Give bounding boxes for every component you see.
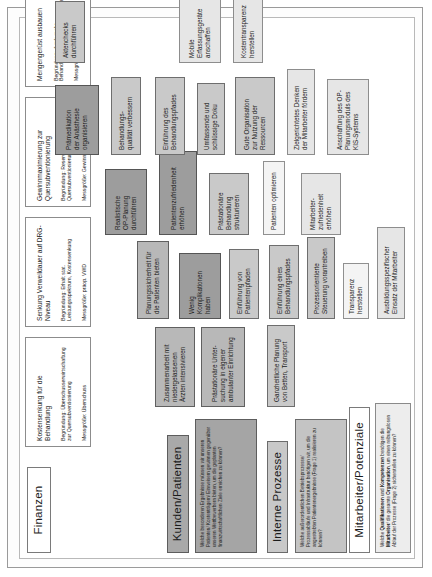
finance-card-verweildauer: Senkung Verweildauer auf DRG-Niveau Begr… xyxy=(25,217,91,327)
goal-patientenzufriedenheit: Patientenzufriedenheit erhöhen xyxy=(159,151,197,235)
finance-card-measure: Messgröße: Überschuss xyxy=(82,343,88,441)
goal-planungssicherheit: Planungssicherheit für die Patienten bie… xyxy=(137,241,169,319)
goal-ausbildungsspezifischer-einsatz: Ausbildungsspezifischer Einsatz der Mita… xyxy=(377,227,405,319)
goal-realistische-op-planung: Realistische OP-Planung durchführen xyxy=(105,169,147,235)
diagram-page: Finanzen Kunden/Patienten Interne Prozes… xyxy=(0,0,432,577)
finance-card-reason: Begründung: Überschusserwirtschaftung zu… xyxy=(61,343,73,441)
question-box-kunden: Welche besonderen Ergebnisse müssen wir … xyxy=(195,419,257,553)
goal-transparenz-herstellen: Transparenz herstellen xyxy=(343,263,369,319)
goal-zielgerichtetes-denken: Zielgerichtetes Denken der Mitarbeiter f… xyxy=(287,69,315,155)
goal-anschaffung-kis-system: Anschaffung des OP- Planungsmoduls des K… xyxy=(327,79,369,155)
strategy-map-canvas: Finanzen Kunden/Patienten Interne Prozes… xyxy=(19,17,415,559)
question-box-prozesse: Welche außerordentlichen Betriebsprozess… xyxy=(295,419,347,553)
finance-card-reason: Begründung: Erhalt stat. Leistungsspektr… xyxy=(61,223,73,321)
goal-prozessorientierte-steuerung: Prozessorientierte Steuerung vorantreibe… xyxy=(307,237,335,319)
perspective-label-mitarbeiter: Mitarbeiter/Potenziale xyxy=(349,407,370,553)
finance-card-title: Senkung Verweildauer auf DRG-Niveau xyxy=(36,223,51,321)
goal-einfuehrung-behandlungspfades: Einführung eines Behandlungspfades xyxy=(269,245,299,319)
goal-gute-organisation: Gute Organisation zur Nutzung der Ressou… xyxy=(235,77,275,155)
finance-card-title: Kostensenkung für die Behandlung xyxy=(36,343,51,441)
finance-card-measure: Messgröße: präop. VWD xyxy=(82,223,88,321)
goal-umfassende-doku: Umfassende und schlüssige Doku xyxy=(197,83,225,155)
goal-einfuehrung-des-behandlungspfades: Einführung des Behandlungspfades xyxy=(155,77,185,155)
goal-behandlungsqualitaet: Behandlungs- qualität verbessern xyxy=(111,77,141,155)
finance-card-title: Gewinnmaximierung zur Quersubventionieru… xyxy=(36,103,51,201)
goal-kostentransparenz: Kostentransparenz herstellen xyxy=(233,0,263,63)
finance-card-title: Mengengerüst ausbauen xyxy=(36,0,44,81)
goal-patienten-optimieren: Patienten optimieren xyxy=(263,161,285,235)
question-box-mitarbeiter: Welche Qualifikationen und Kompetenzen b… xyxy=(375,403,411,553)
goal-wenig-komplikationen: Wenig Komplikationen haben xyxy=(179,253,221,319)
finance-card-kostensenkung: Kostensenkung für die Behandlung Begründ… xyxy=(25,337,91,447)
goal-praestationaere-untersuchung: Prästationäre Unter- suchung in eigener … xyxy=(201,327,245,407)
goal-mobile-erfassungsgeraete: Mobile Erfassungsgeräte anschaffen xyxy=(179,0,221,63)
goal-ganzheitliche-planung: Ganzheitliche Planung von Betten, Transp… xyxy=(267,325,295,407)
goal-praestationaere-behandlung: Prästationäre Behandlung strukturieren xyxy=(209,173,249,235)
goal-einfuehrung-patientenpfaden: Einführung von Patientenpfaden xyxy=(229,249,259,319)
perspective-label-prozesse: Interne Prozesse xyxy=(267,441,288,553)
perspective-label-finanzen: Finanzen xyxy=(27,467,51,553)
goal-zusammenarbeit: Zusammenarbeit mit niedergelassenen Ärzt… xyxy=(155,327,195,407)
goal-praemedikation-anaesthesie: Prämedikation der Anästhesie organisiere… xyxy=(55,85,99,155)
goal-aktenchecks: Aktenchecks durchführen xyxy=(55,1,85,63)
goal-mitarbeiterzufriedenheit: Mitarbeiter- zufriedenheit erhöhen xyxy=(301,173,341,235)
perspective-label-kunden: Kunden/Patienten xyxy=(167,435,189,553)
